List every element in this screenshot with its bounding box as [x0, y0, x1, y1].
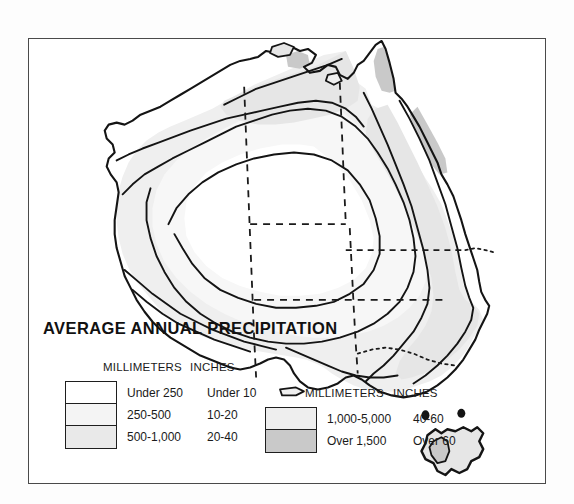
scanned-page: AVERAGE ANNUAL PRECIPITATION MILLIMETERS… [0, 0, 574, 504]
legend-right-header-inches: INCHES [393, 387, 438, 399]
legend-right-in-row-1: Over 60 [413, 434, 456, 448]
legend-swatch-250-500 [66, 404, 116, 426]
legend-swatch-under-250 [66, 382, 116, 404]
island-groote [326, 73, 342, 85]
legend-right-swatch-stack [265, 407, 317, 453]
legend-left-in-row-1: 10-20 [207, 408, 238, 422]
island-melville [270, 43, 294, 57]
island-kangaroo [280, 387, 304, 395]
legend-left-mm-row-0: Under 250 [127, 386, 183, 400]
map-title: AVERAGE ANNUAL PRECIPITATION [43, 319, 337, 338]
legend-right-header-millimeters: MILLIMETERS [305, 387, 384, 399]
islet-flinders [457, 409, 465, 418]
legend-swatch-1000-5000 [266, 408, 316, 430]
legend-left-in-row-0: Under 10 [207, 386, 256, 400]
legend-left-header-inches: INCHES [190, 361, 235, 373]
legend-left-mm-row-1: 250-500 [127, 408, 171, 422]
legend-swatch-500-1000 [66, 426, 116, 448]
legend-left-header-millimeters: MILLIMETERS [103, 361, 182, 373]
legend-left-swatch-stack [65, 381, 117, 449]
legend-right-mm-row-1: Over 1,500 [327, 434, 386, 448]
legend-left-in-row-2: 20-40 [207, 430, 238, 444]
legend-right-mm-row-0: 1,000-5,000 [327, 412, 391, 426]
legend-swatch-over-1500 [266, 430, 316, 452]
legend-left-mm-row-2: 500-1,000 [127, 430, 181, 444]
map-frame: AVERAGE ANNUAL PRECIPITATION MILLIMETERS… [28, 38, 546, 484]
legend-right-in-row-0: 40-60 [413, 412, 444, 426]
